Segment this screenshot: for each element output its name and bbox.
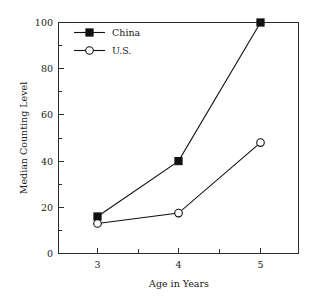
y-tick-label-100: 100 <box>35 17 53 28</box>
series-markers-us <box>94 139 265 228</box>
y-axis-title: Median Counting Level <box>18 82 29 195</box>
x-tick-label-3: 3 <box>94 259 100 270</box>
legend-label-us: U.S. <box>112 45 131 56</box>
data-point-china-age4 <box>175 158 182 165</box>
legend-marker-us-open-circle-icon <box>86 47 94 55</box>
y-tick-labels: 0 20 40 60 80 100 <box>35 17 53 259</box>
legend-label-china: China <box>112 27 141 38</box>
data-point-us-age4 <box>175 209 183 217</box>
x-axis-ticks <box>98 248 261 254</box>
data-point-us-age5 <box>257 139 265 147</box>
y-tick-label-80: 80 <box>41 63 53 74</box>
y-tick-label-20: 20 <box>41 202 53 213</box>
y-tick-label-40: 40 <box>41 156 53 167</box>
x-tick-labels: 3 4 5 <box>94 259 263 270</box>
x-tick-label-4: 4 <box>175 259 181 270</box>
x-axis-title: Age in Years <box>148 278 209 289</box>
chart-legend: China U.S. <box>74 27 141 56</box>
legend-marker-china-filled-square-icon <box>86 29 93 36</box>
x-tick-label-5: 5 <box>257 259 263 270</box>
y-tick-label-0: 0 <box>47 248 53 259</box>
line-chart: 0 20 40 60 80 100 3 4 5 Age in Years Med… <box>0 0 314 300</box>
data-point-china-age3 <box>94 213 101 220</box>
y-tick-label-60: 60 <box>41 109 53 120</box>
data-point-us-age3 <box>94 220 102 228</box>
chart-figure: 0 20 40 60 80 100 3 4 5 Age in Years Med… <box>0 0 314 300</box>
data-point-china-age5 <box>257 19 264 26</box>
